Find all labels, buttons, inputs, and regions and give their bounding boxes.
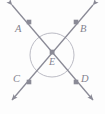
point-label-d: D xyxy=(81,74,89,85)
point-label-a: A xyxy=(15,24,21,35)
point-label-b: B xyxy=(80,24,86,35)
point-marker-a xyxy=(27,20,32,25)
geometry-figure: A B C D E xyxy=(0,0,105,114)
point-label-c: C xyxy=(13,74,20,85)
point-marker-c xyxy=(27,80,32,85)
point-marker-e xyxy=(50,50,55,55)
point-marker-b xyxy=(74,20,79,25)
point-label-e: E xyxy=(49,57,55,67)
point-marker-d xyxy=(74,80,79,85)
